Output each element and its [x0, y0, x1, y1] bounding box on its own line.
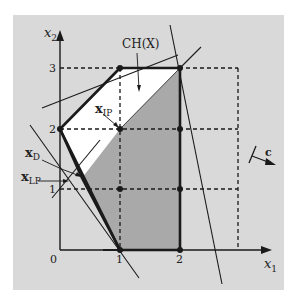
x-tick-2: 2 [176, 253, 183, 266]
y-tick-1: 1 [49, 183, 56, 196]
convex-hull-label: CH(X) [122, 37, 160, 51]
lp-diagram: x2 x1 0 1 2 1 2 3 CH(X) xIP xD xLP c [0, 0, 297, 301]
origin-label: 0 [50, 253, 57, 266]
y-tick-3: 3 [49, 62, 56, 75]
objective-label: c [265, 146, 272, 159]
y-tick-2: 2 [49, 123, 56, 136]
x-tick-1: 1 [116, 253, 123, 266]
